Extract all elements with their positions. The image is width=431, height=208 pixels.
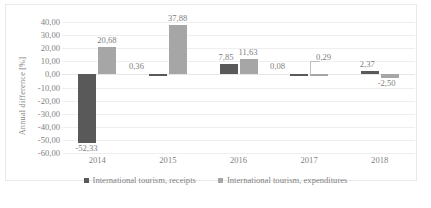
data-label-2015-series1: 0,36 [129,62,144,71]
gridline [62,153,415,154]
data-label-leader-line [310,61,320,75]
x-axis-tick-2016: 2016 [209,155,269,165]
data-label-2016-series1: 7,85 [219,53,234,62]
y-axis-tick-label: -20,00 [16,97,60,105]
x-axis-tick-2017: 2017 [279,155,339,165]
legend-swatch-icon [84,178,89,183]
y-axis-tick-label: 40,00 [16,18,60,26]
chart-legend: International tourism, receiptsInternati… [0,172,431,188]
bar-2016-series2[interactable] [240,59,258,74]
legend-swatch-icon [218,178,223,183]
legend-item-label: International tourism, receipts [93,175,196,185]
data-label-2015-series2: 37,88 [168,14,187,23]
y-axis-tick-label: -10,00 [16,84,60,92]
gridline [62,88,415,89]
y-axis-tick-label: 30,00 [16,31,60,39]
gridline [62,140,415,141]
data-label-2014-series1: -52,33 [75,144,97,153]
x-axis-tick-2018: 2018 [350,155,410,165]
data-label-2017-series1: 0,08 [270,62,285,71]
gridline [62,127,415,128]
bar-2017-series1[interactable] [290,74,308,76]
gridline [62,114,415,115]
bar-2016-series1[interactable] [220,64,238,74]
legend-item-1[interactable]: International tourism, receipts [84,175,196,185]
y-axis-tick-label: -50,00 [16,136,60,144]
y-axis-tick-label: 0,00 [16,70,60,78]
bar-2014-series1[interactable] [78,74,96,143]
bar-2015-series1[interactable] [149,74,167,76]
y-axis-tick-label: -40,00 [16,123,60,131]
x-axis-tick-2015: 2015 [138,155,198,165]
gridline [62,22,415,23]
y-axis-tick-label: 10,00 [16,57,60,65]
data-label-2016-series2: 11,63 [239,48,258,57]
y-axis-tick-label: 20,00 [16,44,60,52]
x-axis-tick-2014: 2014 [67,155,127,165]
legend-item-2[interactable]: International tourism, expenditures [218,175,348,185]
bar-2018-series1[interactable] [361,71,379,74]
bar-2014-series2[interactable] [98,47,116,74]
y-axis-tick-label: -30,00 [16,110,60,118]
y-axis-tick-label: -60,00 [16,149,60,157]
zero-gridline [62,74,415,75]
chart-plot-area: Annual difference [%] 40,0030,0020,0010,… [0,0,431,208]
data-label-2018-series1: 2,37 [360,60,375,69]
data-label-2014-series2: 20,68 [97,36,116,45]
bar-2015-series2[interactable] [169,25,187,75]
legend-item-label: International tourism, expenditures [227,175,348,185]
gridline [62,101,415,102]
data-label-2018-series2: -2,50 [378,79,396,88]
x-axis-ticks: 20142015201620172018 [62,155,415,169]
